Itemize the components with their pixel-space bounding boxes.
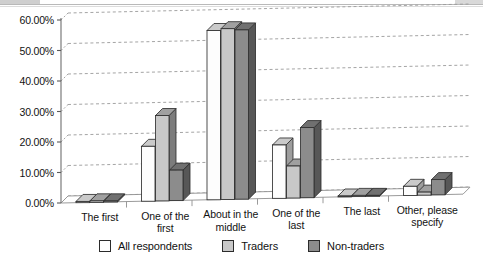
legend-item: Traders	[222, 240, 278, 252]
chart-plot-area: 60.00%50.00%40.00%30.00%20.00%10.00%0.00…	[0, 0, 483, 238]
chart-svg	[0, 0, 483, 238]
y-axis-tick-label: 20.00%	[20, 136, 54, 148]
y-axis-tick-label: 60.00%	[20, 14, 54, 26]
chart-legend: All respondentsTradersNon-traders	[0, 240, 483, 270]
x-label-line1: One of the	[141, 210, 189, 222]
x-label-line2: last	[288, 219, 304, 231]
x-label-line1: About in the	[203, 208, 258, 220]
y-axis-tick-label: 50.00%	[20, 45, 54, 57]
legend-swatch	[99, 240, 111, 252]
y-axis-tick-label: 30.00%	[20, 106, 54, 118]
x-axis-category-label: Other, pleasespecify	[383, 204, 471, 229]
y-axis-tick-label: 0.00%	[25, 197, 54, 209]
x-label-line1: The last	[343, 205, 380, 217]
legend-swatch	[308, 240, 320, 252]
chart-screenshot: 60.00%50.00%40.00%30.00%20.00%10.00%0.00…	[0, 0, 483, 270]
x-label-line2: specify	[411, 216, 443, 228]
x-label-line1: The first	[81, 211, 118, 223]
y-axis-tick-label: 10.00%	[20, 167, 54, 179]
legend-label: All respondents	[118, 240, 192, 252]
legend-item: All respondents	[99, 240, 192, 252]
x-label-line2: first	[157, 222, 173, 234]
y-axis-tick-label: 40.00%	[20, 75, 54, 87]
legend-swatch	[222, 240, 234, 252]
legend-label: Traders	[241, 240, 278, 252]
legend-label: Non-traders	[327, 240, 384, 252]
x-label-line1: Other, please	[397, 204, 458, 216]
x-label-line2: middle	[216, 221, 246, 233]
x-label-line1: One of the	[272, 207, 320, 219]
legend-item: Non-traders	[308, 240, 384, 252]
